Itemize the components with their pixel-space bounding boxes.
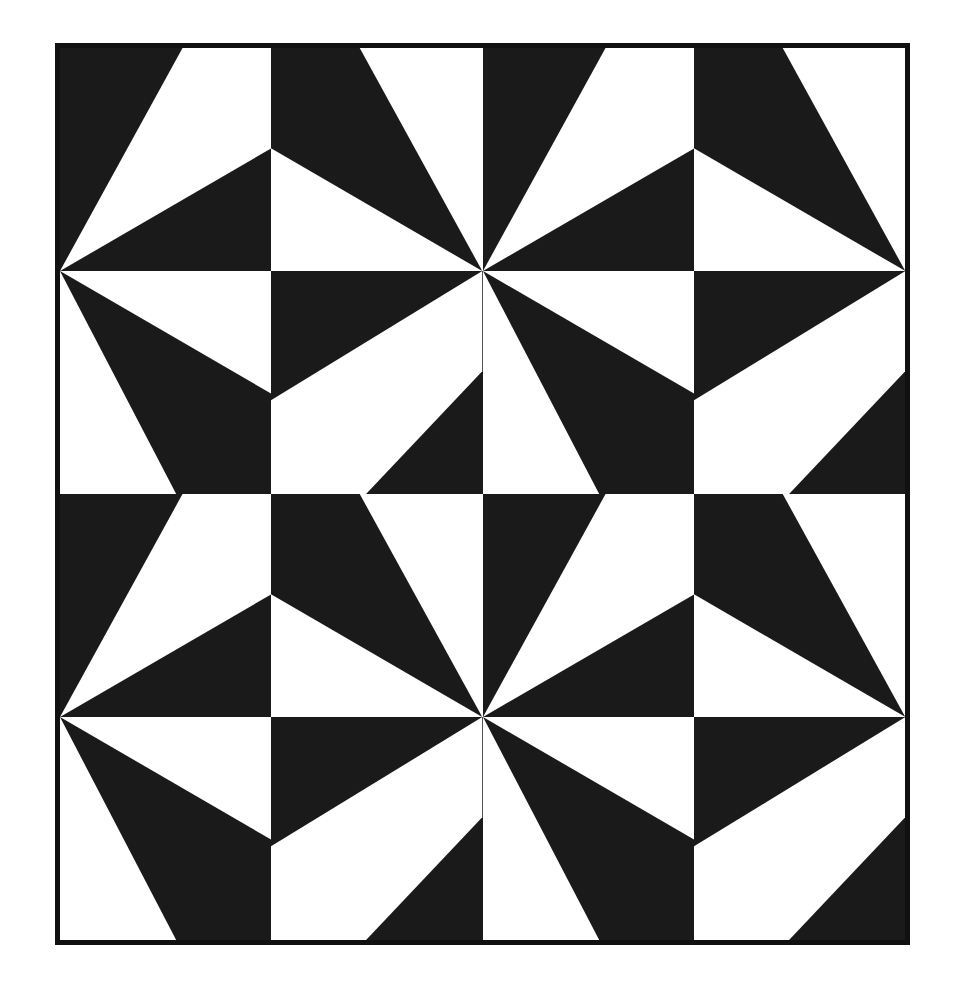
pattern-tile — [483, 271, 694, 494]
tile-wedge-shape — [60, 48, 271, 271]
pattern-tile — [60, 271, 271, 494]
tile-wedge-shape — [271, 717, 482, 940]
tile-wedge-shape — [483, 271, 694, 494]
tile-wedge-shape — [60, 494, 271, 717]
pattern-tile — [271, 48, 482, 271]
pattern-tile — [483, 494, 694, 717]
artwork-canvas — [0, 0, 957, 1002]
tile-wedge-shape — [271, 494, 482, 717]
pattern-tile — [271, 271, 482, 494]
pattern-tile — [483, 48, 694, 271]
pattern-tile — [694, 271, 905, 494]
pattern-tile — [271, 717, 482, 940]
tile-wedge-shape — [694, 271, 905, 494]
tile-wedge-shape — [483, 48, 694, 271]
pattern-tile — [694, 494, 905, 717]
tile-wedge-shape — [271, 48, 482, 271]
pattern-tile — [60, 494, 271, 717]
tile-wedge-shape — [483, 494, 694, 717]
pattern-tile — [60, 717, 271, 940]
pattern-tile — [694, 717, 905, 940]
tile-wedge-shape — [694, 717, 905, 940]
pattern-tile — [271, 494, 482, 717]
tile-wedge-shape — [60, 717, 271, 940]
tile-wedge-shape — [60, 271, 271, 494]
pattern-frame — [55, 43, 910, 945]
tile-grid — [60, 48, 905, 940]
tile-wedge-shape — [483, 717, 694, 940]
tile-wedge-shape — [694, 48, 905, 271]
pattern-tile — [60, 48, 271, 271]
pattern-tile — [694, 48, 905, 271]
pattern-tile — [483, 717, 694, 940]
tile-wedge-shape — [271, 271, 482, 494]
tile-wedge-shape — [694, 494, 905, 717]
